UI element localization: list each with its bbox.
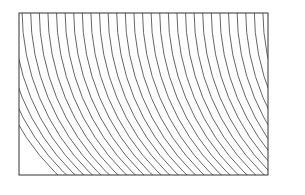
arc-line — [82, 0, 305, 195]
arc-line — [65, 0, 305, 195]
arc-line — [39, 0, 305, 195]
arc-line — [108, 0, 305, 195]
figure-frame — [19, 13, 268, 175]
arc-line — [237, 0, 305, 195]
arc-line — [254, 0, 305, 195]
arc-line — [271, 0, 305, 195]
arc-line — [142, 0, 305, 195]
arc-line — [160, 0, 305, 195]
arc-line — [48, 0, 305, 195]
arc-line — [168, 0, 305, 195]
arc-line — [297, 0, 305, 195]
arc-line — [151, 0, 305, 195]
arc-line — [194, 0, 305, 195]
arc-line — [289, 0, 305, 195]
arc-line — [203, 0, 305, 195]
arc-line — [220, 0, 305, 195]
arc-line — [280, 0, 305, 195]
arc-lines — [0, 0, 305, 195]
arc-line — [99, 0, 305, 195]
arc-line — [117, 0, 305, 195]
arc-line — [177, 0, 305, 195]
arc-line — [211, 0, 305, 195]
arc-line — [263, 0, 305, 195]
curved-line-pattern-figure — [0, 0, 305, 195]
arc-line — [228, 0, 305, 195]
arc-line — [5, 0, 305, 195]
arc-line — [91, 0, 305, 195]
